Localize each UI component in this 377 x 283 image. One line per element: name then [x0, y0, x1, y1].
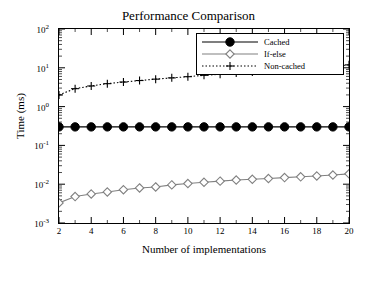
x-tick-label: 10: [183, 226, 192, 236]
x-tick-label: 2: [57, 226, 62, 236]
legend-swatch: [200, 36, 260, 48]
x-axis-ticks: 2468101214161820: [58, 226, 350, 240]
y-tick-label: 10-1: [34, 139, 49, 151]
y-tick-label: 101: [37, 62, 50, 74]
series-if-else: [59, 170, 349, 207]
legend: CachedIf-elseNon-cached: [196, 33, 344, 75]
chart-container: Performance Comparison 10-310-210-110010…: [0, 0, 377, 283]
legend-item: Cached: [200, 36, 340, 48]
x-tick-label: 20: [345, 226, 354, 236]
y-axis-ticks: 10-310-210-1100101102: [0, 28, 54, 224]
x-tick-label: 8: [153, 226, 158, 236]
legend-label: Cached: [264, 37, 290, 47]
x-tick-label: 18: [312, 226, 321, 236]
y-tick-label: 10-3: [34, 217, 49, 229]
x-axis-label: Number of implementations: [58, 243, 350, 255]
y-tick-label: 102: [37, 23, 50, 35]
y-axis-label: Time (ms): [14, 46, 26, 186]
x-tick-label: 4: [89, 226, 94, 236]
y-tick-label: 100: [37, 101, 50, 113]
chart-title: Performance Comparison: [0, 8, 377, 24]
legend-swatch: [200, 48, 260, 60]
x-tick-label: 16: [280, 226, 289, 236]
legend-swatch: [200, 60, 260, 72]
x-tick-label: 12: [216, 226, 225, 236]
legend-item: Non-cached: [200, 60, 340, 72]
legend-label: Non-cached: [264, 61, 305, 71]
x-tick-label: 14: [248, 226, 257, 236]
series-cached: [59, 123, 349, 131]
y-tick-label: 10-2: [34, 178, 49, 190]
x-tick-label: 6: [121, 226, 126, 236]
legend-label: If-else: [264, 49, 286, 59]
legend-item: If-else: [200, 48, 340, 60]
